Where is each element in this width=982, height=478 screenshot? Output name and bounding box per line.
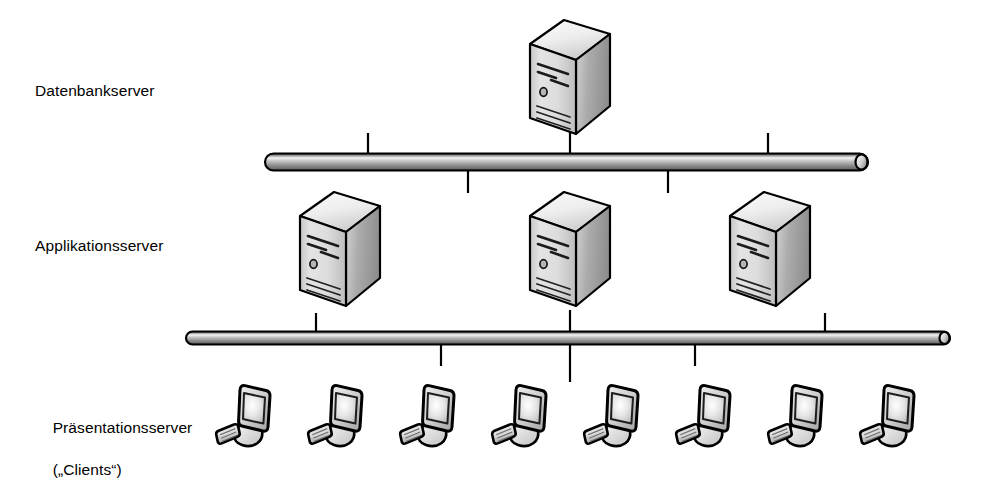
client-workstation-node-1[interactable]	[216, 385, 270, 446]
lower-network-bus	[186, 332, 950, 345]
application-server-node-2[interactable]	[530, 192, 610, 306]
upper-bus-end-cap	[856, 154, 868, 169]
application-server-node-1[interactable]	[300, 192, 380, 306]
client-workstation-node-8[interactable]	[860, 385, 914, 446]
client-workstation-node-3[interactable]	[400, 385, 454, 446]
lower-bus-end-cap	[940, 332, 950, 344]
application-server-node-3[interactable]	[730, 192, 810, 306]
database-server-node[interactable]	[530, 20, 610, 134]
client-workstation-node-4[interactable]	[492, 385, 546, 446]
client-workstation-node-7[interactable]	[768, 385, 822, 446]
client-workstation-node-6[interactable]	[676, 385, 730, 446]
upper-network-bus	[265, 154, 868, 171]
diagram-canvas: Datenbankserver Applikationsserver Präse…	[0, 0, 982, 478]
client-workstation-node-2[interactable]	[308, 385, 362, 446]
diagram-artwork	[0, 0, 982, 478]
client-workstation-node-5[interactable]	[584, 385, 638, 446]
